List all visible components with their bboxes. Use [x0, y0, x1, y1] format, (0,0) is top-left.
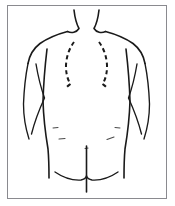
right-hip-tick: [107, 137, 114, 140]
right-flank-tick: [115, 128, 120, 129]
left-flank-tick: [53, 128, 58, 129]
left-gluteal-fold: [55, 172, 87, 180]
neck-right-contour: [94, 10, 106, 33]
dashed-arc-right-marking: [99, 42, 107, 88]
right-shoulder-contour: [106, 32, 146, 64]
right-gluteal-fold: [87, 172, 119, 180]
left-arm-outer-contour: [24, 64, 30, 140]
torso-right-contour: [124, 49, 130, 178]
left-shoulder-contour: [28, 32, 68, 64]
dashed-arc-left-marking: [66, 42, 74, 88]
left-hip-tick: [59, 139, 65, 140]
torso-drawing: [8, 6, 166, 198]
right-arm-outer-contour: [144, 64, 150, 140]
body-diagram-figure: Posterior torso outline diagram upper ba…: [0, 0, 175, 206]
figure-canvas: [8, 6, 166, 198]
torso-left-contour: [43, 49, 49, 178]
neck-left-contour: [68, 10, 80, 33]
